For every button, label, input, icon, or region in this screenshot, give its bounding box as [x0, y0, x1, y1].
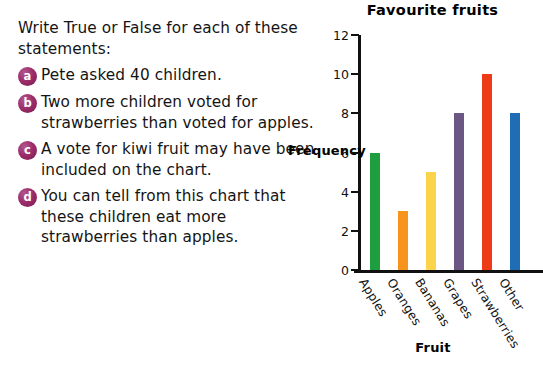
bar-bananas: [426, 172, 436, 270]
y-axis-tick: [351, 191, 359, 193]
instruction-text: Write True or False for each of these st…: [18, 18, 318, 59]
y-axis-tick: [351, 73, 359, 75]
y-axis-tick-label: 10: [333, 67, 349, 82]
chart-title: Favourite fruits: [322, 2, 543, 18]
question-text-a: Pete asked 40 children.: [41, 65, 222, 86]
question-text-b: Two more children voted for strawberries…: [41, 92, 318, 133]
bar-grapes: [454, 113, 464, 270]
bar-apples: [370, 153, 380, 271]
y-axis-tick: [351, 269, 359, 271]
list-item: c A vote for kiwi fruit may have been in…: [18, 139, 318, 180]
question-marker-b: b: [18, 94, 37, 113]
y-axis-title: Frequency: [288, 143, 366, 158]
y-axis-tick-label: 0: [341, 263, 349, 278]
bar-other: [510, 113, 520, 270]
y-axis-tick-label: 4: [341, 184, 349, 199]
y-axis-tick-label: 6: [341, 145, 349, 160]
question-marker-c: c: [18, 141, 37, 160]
chart-plot-area: Frequency 024681012 ApplesOrangesBananas…: [358, 35, 543, 270]
list-item: d You can tell from this chart that thes…: [18, 186, 318, 248]
y-axis-tick-label: 12: [333, 28, 349, 43]
question-marker-d: d: [18, 188, 37, 207]
x-axis-title: Fruit: [358, 340, 508, 355]
bar-oranges: [398, 211, 408, 270]
question-text-c: A vote for kiwi fruit may have been incl…: [41, 139, 318, 180]
x-axis-line: [354, 270, 543, 273]
question-marker-a: a: [18, 67, 37, 86]
y-axis-tick-label: 8: [341, 106, 349, 121]
bar-chart: Favourite fruits Frequency 024681012 App…: [322, 0, 543, 368]
list-item: a Pete asked 40 children.: [18, 65, 318, 86]
y-axis-tick: [351, 34, 359, 36]
x-axis-label-other: Other: [496, 276, 527, 314]
worksheet-question-panel: Write True or False for each of these st…: [18, 18, 318, 248]
question-text-d: You can tell from this chart that these …: [41, 186, 318, 248]
y-axis-tick: [351, 152, 359, 154]
y-axis-tick: [351, 112, 359, 114]
list-item: b Two more children voted for strawberri…: [18, 92, 318, 133]
y-axis-tick-label: 2: [341, 223, 349, 238]
bar-strawberries: [482, 74, 492, 270]
y-axis-tick: [351, 230, 359, 232]
